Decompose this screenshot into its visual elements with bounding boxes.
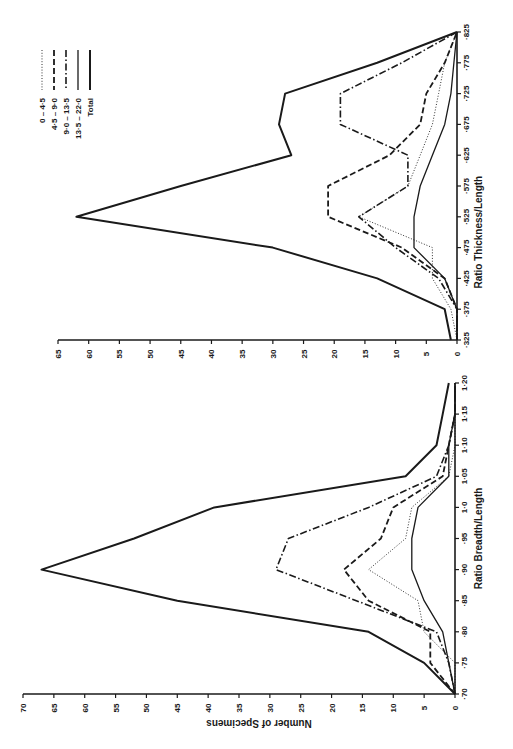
- category-tick-label: ·625: [462, 147, 471, 164]
- category-tick-label: 1·0: [460, 501, 469, 513]
- legend-label: Total: [86, 98, 95, 117]
- category-tick-label: ·95: [460, 532, 469, 544]
- count-tick-label: 0: [451, 705, 460, 710]
- series-line: [344, 383, 455, 694]
- count-tick-label: 40: [207, 349, 216, 358]
- category-tick-label: ·375: [462, 301, 471, 318]
- series-line: [76, 32, 457, 340]
- figure: ·325·375·425·475·525·575·625·675·725·775…: [0, 0, 513, 749]
- chart-thickness-length: ·325·375·425·475·525·575·625·675·725·775…: [54, 23, 484, 358]
- category-tick-label: ·525: [462, 208, 471, 225]
- category-tick-label: ·725: [462, 85, 471, 102]
- legend-label: 9·0 – 13·5: [62, 97, 71, 134]
- category-tick-label: ·80: [460, 625, 469, 637]
- category-tick-label: ·70: [460, 688, 469, 700]
- count-tick-label: 60: [81, 703, 90, 712]
- count-tick-label: 5: [420, 705, 429, 710]
- count-tick-label: 50: [146, 349, 155, 358]
- count-tick-label: 45: [173, 703, 182, 712]
- category-tick-label: ·85: [460, 594, 469, 606]
- legend-label: 4·5 – 9·0: [50, 97, 59, 130]
- count-tick-label: 10: [389, 703, 398, 712]
- count-tick-label: 45: [177, 349, 186, 358]
- category-axis-title: Ratio Thickness/Length: [473, 176, 484, 289]
- category-tick-label: ·75: [460, 657, 469, 669]
- legend: 0 – 4·54·5 – 9·09·0 – 13·513·5 – 22·0Tot…: [38, 50, 95, 139]
- chart-breadth-length: ·70·75·80·85·90·951·01·051·101·151·20Rat…: [19, 374, 484, 729]
- count-tick-label: 55: [112, 703, 121, 712]
- count-tick-label: 5: [422, 351, 431, 356]
- category-tick-label: ·475: [462, 239, 471, 256]
- count-tick-label: 60: [85, 349, 94, 358]
- count-tick-label: 30: [266, 703, 275, 712]
- count-tick-label: 30: [269, 349, 278, 358]
- series-line: [412, 383, 455, 694]
- count-tick-label: 25: [297, 703, 306, 712]
- count-tick-label: 15: [358, 703, 367, 712]
- count-tick-label: 40: [204, 703, 213, 712]
- count-tick-label: 70: [19, 703, 28, 712]
- count-tick-label: 20: [330, 349, 339, 358]
- category-tick-label: ·90: [460, 563, 469, 575]
- legend-label: 0 – 4·5: [38, 97, 47, 122]
- count-tick-label: 35: [238, 349, 247, 358]
- count-tick-label: 50: [142, 703, 151, 712]
- category-tick-label: 1·05: [460, 468, 469, 485]
- count-axis-title: Number of Specimens: [206, 718, 312, 729]
- count-tick-label: 20: [328, 703, 337, 712]
- category-tick-label: ·325: [462, 331, 471, 348]
- count-tick-label: 55: [115, 349, 124, 358]
- count-tick-label: 65: [54, 349, 63, 358]
- category-tick-label: ·675: [462, 116, 471, 133]
- series-line: [340, 32, 457, 340]
- series-line: [42, 383, 456, 694]
- series-line: [328, 32, 457, 340]
- series-line: [276, 383, 455, 694]
- count-tick-label: 15: [361, 349, 370, 358]
- count-tick-label: 0: [453, 351, 462, 356]
- category-tick-label: ·425: [462, 270, 471, 287]
- category-axis-title: Ratio Breadth/Length: [473, 488, 484, 590]
- count-tick-label: 10: [392, 349, 401, 358]
- category-tick-label: 1·15: [460, 406, 469, 423]
- category-tick-label: ·775: [462, 54, 471, 71]
- category-tick-label: ·575: [462, 177, 471, 194]
- category-tick-label: 1·20: [460, 374, 469, 391]
- legend-label: 13·5 – 22·0: [74, 97, 83, 138]
- count-tick-label: 65: [50, 703, 59, 712]
- category-tick-label: ·825: [462, 23, 471, 40]
- count-tick-label: 35: [235, 703, 244, 712]
- count-tick-label: 25: [300, 349, 309, 358]
- category-tick-label: 1·10: [460, 437, 469, 454]
